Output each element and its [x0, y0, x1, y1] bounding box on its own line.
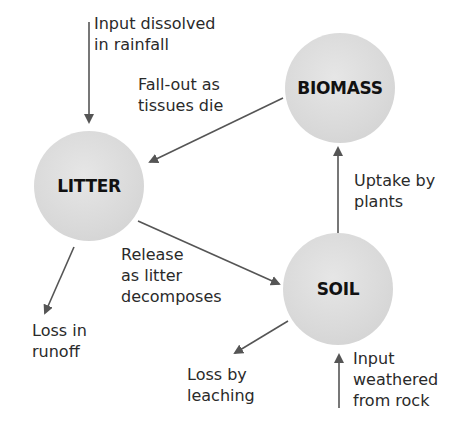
- arrow-loss-runoff: [45, 247, 74, 313]
- node-litter: LITTER: [34, 131, 144, 241]
- node-biomass-label: BIOMASS: [297, 78, 382, 98]
- label-uptake: Uptake by plants: [354, 170, 435, 212]
- node-soil-label: SOIL: [317, 279, 360, 299]
- node-litter-label: LITTER: [57, 176, 121, 196]
- node-biomass: BIOMASS: [285, 33, 395, 143]
- label-input-weathered: Input weathered from rock: [353, 348, 438, 411]
- node-soil: SOIL: [283, 233, 393, 345]
- arrow-loss-leaching: [235, 321, 288, 353]
- label-input-rainfall: Input dissolved in rainfall: [94, 13, 216, 55]
- label-release: Release as litter decomposes: [121, 244, 222, 307]
- label-fall-out: Fall-out as tissues die: [138, 74, 223, 116]
- label-loss-leaching: Loss by leaching: [187, 364, 255, 406]
- label-loss-runoff: Loss in runoff: [32, 320, 87, 362]
